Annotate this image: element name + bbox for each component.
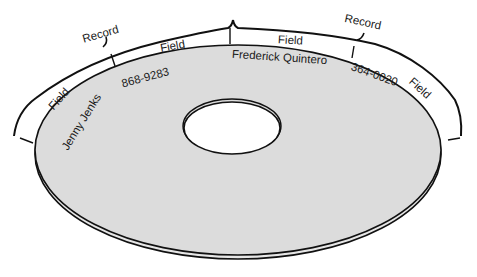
field-divider-1 [20,138,33,143]
record-label-2: Record [344,12,383,31]
field-divider-4 [352,46,354,58]
field-divider-5 [448,138,460,140]
record-label-1: Record [81,23,120,45]
field-label-3: Field [278,33,304,46]
disk-diagram: Record Record Field Field Field Field Je… [0,0,477,277]
disk-hole [184,102,280,154]
disk-svg: Record Record Field Field Field Field Je… [0,0,477,277]
record-bracket-2-tip [357,33,364,40]
